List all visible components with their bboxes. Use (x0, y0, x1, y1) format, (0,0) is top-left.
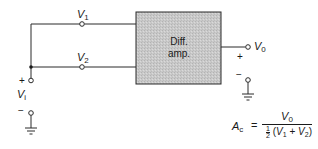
terminal-v2 (80, 65, 85, 70)
terminal-vi-plus (29, 78, 34, 83)
output-minus-sign: − (236, 70, 242, 80)
terminal-vi-minus (29, 111, 34, 116)
junction-dot (29, 65, 33, 69)
label-v2: V2 (77, 52, 89, 65)
terminal-v0-minus (246, 78, 251, 83)
half-fraction: 12 (266, 126, 270, 139)
label-v0: V0 (254, 41, 266, 54)
label-vi: Vi (17, 89, 26, 102)
ground-icon (242, 94, 254, 100)
source-minus-sign: − (18, 106, 24, 116)
ground-icon (25, 128, 37, 134)
formula-equals: = (251, 119, 257, 131)
diff-amp-label: Diff. amp. (136, 36, 222, 60)
output-plus-sign: + (237, 52, 243, 62)
label-v1: V1 (77, 9, 89, 22)
source-plus-sign: + (19, 76, 25, 86)
formula-denominator: 12 (V1 + V2) (262, 126, 316, 139)
terminal-v1 (80, 22, 85, 27)
formula-numerator: V0 (262, 110, 312, 124)
formula-lhs: Ac (232, 120, 243, 134)
terminal-v0-plus (246, 45, 251, 50)
